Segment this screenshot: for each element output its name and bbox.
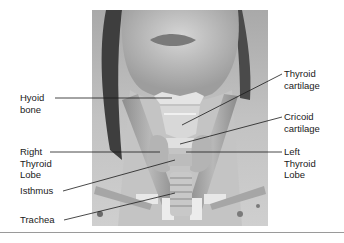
label-thyroid-cartilage: Thyroid cartilage — [284, 68, 320, 91]
anatomy-figure: Hyoid bone Thyroid cartilage Cricoid car… — [0, 0, 344, 243]
neck-anatomy-illustration — [92, 10, 268, 226]
label-trachea: Trachea — [20, 214, 55, 226]
label-hyoid-bone: Hyoid bone — [20, 92, 44, 115]
label-cricoid-cartilage: Cricoid cartilage — [284, 111, 320, 134]
bottom-divider — [0, 232, 344, 233]
label-left-thyroid-lobe: Left Thyroid Lobe — [284, 146, 316, 181]
label-isthmus: Isthmus — [20, 185, 53, 197]
label-right-thyroid-lobe: Right Thyroid Lobe — [20, 146, 52, 181]
